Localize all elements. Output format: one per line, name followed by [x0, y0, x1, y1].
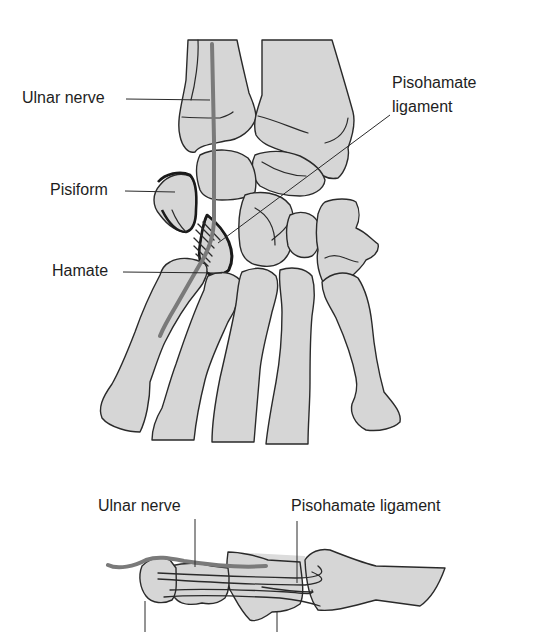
ulna-bone	[179, 40, 256, 152]
triquetrum-bone	[197, 150, 256, 200]
anatomy-figure: Ulnar nerve Pisohamate ligament Pisiform…	[0, 0, 553, 632]
label-pisiform: Pisiform	[50, 181, 108, 199]
label-lateral-pisohamate-ligament: Pisohamate ligament	[291, 497, 440, 515]
metacarpal-1	[322, 273, 400, 430]
label-ulnar-nerve: Ulnar nerve	[22, 89, 105, 107]
label-hamate: Hamate	[52, 262, 108, 280]
label-pisohamate-line2: ligament	[392, 98, 477, 116]
pisiform-bone	[154, 174, 196, 232]
lateral-metacarpal	[305, 549, 445, 610]
lateral-triquetrum	[168, 563, 229, 604]
lateral-view	[108, 519, 445, 632]
scaphoid-bone	[317, 199, 379, 285]
trapezoid-bone	[287, 212, 320, 257]
capitate-bone	[239, 192, 294, 266]
hand-bones-view	[100, 40, 400, 444]
label-lateral-ulnar-nerve: Ulnar nerve	[98, 497, 181, 515]
label-pisohamate-ligament: Pisohamate ligament	[392, 74, 477, 116]
lateral-hamate	[227, 552, 303, 621]
label-pisohamate-line1: Pisohamate	[392, 74, 477, 92]
